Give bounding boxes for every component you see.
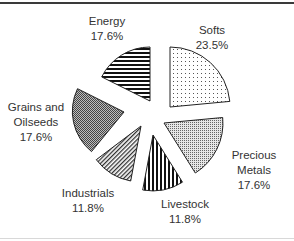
label-precious-metals: Precious Metals 17.6% [232,148,277,193]
label-precious-pct: 17.6% [232,178,277,193]
label-industrials: Industrials 11.8% [62,186,114,216]
label-grains-name1: Grains and [8,100,64,115]
label-industrials-pct: 11.8% [62,201,114,216]
slice-precious-metals[interactable] [164,118,223,174]
label-industrials-name: Industrials [62,186,114,201]
label-energy-name: Energy [89,14,125,29]
slice-softs[interactable] [170,47,230,107]
label-precious-name2: Metals [232,163,277,178]
slice-energy[interactable] [102,47,150,101]
label-livestock-name: Livestock [161,197,209,212]
label-grains-name2: Oilseeds [8,115,64,130]
label-grains-pct: 17.6% [8,130,64,145]
label-softs-pct: 23.5% [196,38,229,53]
label-softs-name: Softs [196,23,229,38]
label-softs: Softs 23.5% [196,23,229,53]
label-livestock: Livestock 11.8% [161,197,209,227]
label-grains-oilseeds: Grains and Oilseeds 17.6% [8,100,64,145]
label-precious-name1: Precious [232,148,277,163]
label-energy-pct: 17.6% [89,29,125,44]
slice-grains-oilseeds[interactable] [72,89,124,152]
label-livestock-pct: 11.8% [161,212,209,227]
chart-frame: Energy 17.6% Softs 23.5% Grains and Oils… [0,0,294,241]
label-energy: Energy 17.6% [89,14,125,44]
